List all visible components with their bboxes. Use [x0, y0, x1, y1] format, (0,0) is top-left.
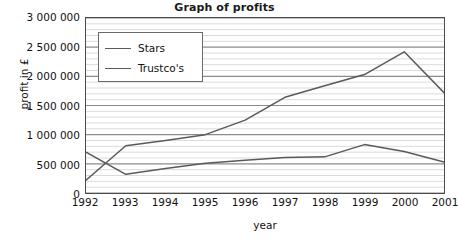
y-tick-label: 1 000 000 — [2, 129, 80, 141]
legend-line-swatch-stars — [105, 48, 131, 49]
y-tick-label: 2 500 000 — [2, 41, 80, 53]
x-tick-label: 1998 — [312, 196, 339, 208]
legend-label-trustcos: Trustco's — [138, 62, 184, 74]
x-tick-label: 1999 — [352, 196, 379, 208]
x-tick-label: 1996 — [232, 196, 259, 208]
x-tick-label: 1995 — [192, 196, 219, 208]
legend-label-stars: Stars — [138, 42, 165, 54]
x-tick-label: 1994 — [152, 196, 179, 208]
x-tick-label: 1997 — [272, 196, 299, 208]
x-tick-label: 1992 — [72, 196, 99, 208]
x-tick-label: 2001 — [432, 196, 458, 208]
y-tick-label: 2 000 000 — [2, 70, 80, 82]
x-tick-label: 1993 — [112, 196, 139, 208]
legend-item-trustcos: Trustco's — [105, 58, 196, 78]
x-tick-label: 2000 — [392, 196, 419, 208]
chart-legend: Stars Trustco's — [98, 32, 203, 82]
series-line-trustco-s — [86, 145, 444, 175]
y-tick-label: 3 000 000 — [2, 11, 80, 23]
x-axis-tick-labels: 1992199319941995199619971998199920002001 — [85, 196, 445, 214]
y-tick-label: 1 500 000 — [2, 100, 80, 112]
y-axis-tick-labels: 0500 0001 000 0001 500 0002 000 0002 500… — [0, 17, 80, 194]
x-axis-title: year — [85, 219, 445, 231]
y-tick-label: 500 000 — [2, 159, 80, 171]
legend-item-stars: Stars — [105, 38, 196, 58]
y-tick-label: 0 — [2, 188, 80, 200]
legend-line-swatch-trustcos — [105, 68, 131, 69]
